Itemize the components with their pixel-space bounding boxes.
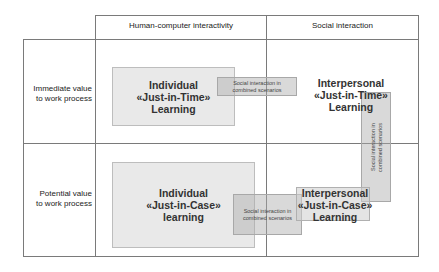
grid-right [418, 15, 419, 257]
row-label-immediate: Immediate value to work process [25, 84, 92, 104]
connector-text-line: Social interaction in [243, 208, 292, 215]
connector-text-line: combined scenarios [233, 87, 282, 94]
quadrant-individual-jit: Individual «Just-in-Time» Learning [112, 67, 235, 126]
connector-text-line: combined scenarios [376, 123, 383, 172]
grid-bottom [23, 256, 419, 257]
grid-header-top [95, 15, 419, 16]
quadrant-title-line: Learning [290, 211, 380, 223]
row-label-line: Immediate value [25, 84, 92, 94]
grid-row-divider [23, 143, 419, 144]
quadrant-title-line: Interpersonal [305, 77, 397, 89]
quadrant-title-line: «Just-in-Time» [305, 89, 397, 101]
grid-body-top [23, 39, 419, 40]
row-label-line: Potential value [25, 189, 92, 199]
quadrant-interpersonal-jic: Interpersonal «Just-in-Case» Learning [290, 187, 380, 223]
connector-text-line: combined scenarios [243, 215, 292, 222]
quadrant-title-line: Learning [305, 101, 397, 113]
row-label-potential: Potential value to work process [25, 189, 92, 209]
column-header-social: Social interaction [267, 21, 418, 30]
connector-social-top: Social interaction in combined scenarios [217, 77, 297, 96]
grid-left [23, 39, 24, 257]
quadrant-interpersonal-jit: Interpersonal «Just-in-Time» Learning [305, 77, 397, 113]
quadrant-title-line: Learning [137, 103, 211, 115]
quadrant-title-line: Interpersonal [290, 187, 380, 199]
quadrant-title-line: «Just-in-Case» [290, 199, 380, 211]
row-label-line: to work process [25, 199, 92, 209]
row-label-line: to work process [25, 94, 92, 104]
connector-text-line: Social interaction in [370, 123, 377, 172]
connector-text-line: Social interaction in [233, 80, 282, 87]
quadrant-title-line: Individual [146, 187, 221, 199]
quadrant-title-line: learning [146, 211, 221, 223]
quadrant-title-line: «Just-in-Time» [137, 91, 211, 103]
column-header-hci: Human-computer interactivity [96, 21, 266, 30]
grid-label-divider [95, 15, 96, 257]
quadrant-title-line: Individual [137, 79, 211, 91]
quadrant-title-line: «Just-in-Case» [146, 199, 221, 211]
